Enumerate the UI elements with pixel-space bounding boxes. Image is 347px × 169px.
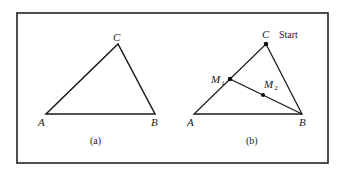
vertex-label-b-C: C (262, 28, 270, 40)
point-label-m1-main: M (210, 73, 221, 85)
vertex-label-a-C: C (113, 31, 121, 43)
point-label-m2: M2 (263, 78, 278, 92)
start-label: Start (279, 29, 298, 40)
point-label-m2-sub: 2 (274, 84, 278, 92)
triangle-midpoint-diagram: A B C (a) A B C Start M1 M2 (b) (0, 0, 347, 169)
triangle-abc-a (46, 44, 155, 114)
point-m1-dot (228, 77, 233, 82)
caption-b: (b) (246, 135, 258, 147)
vertex-label-a-B: B (151, 116, 158, 128)
caption-a: (a) (90, 135, 101, 147)
point-label-m2-main: M (263, 78, 274, 90)
panel-b: A B C Start M1 M2 (b) (186, 28, 306, 147)
panel-a: A B C (a) (37, 31, 158, 147)
vertex-label-b-A: A (186, 116, 194, 128)
point-c-start-dot (264, 42, 269, 47)
vertex-label-a-A: A (37, 116, 45, 128)
point-m2-dot (261, 93, 265, 97)
point-label-m1: M1 (210, 73, 225, 87)
vertex-label-b-B: B (299, 116, 306, 128)
point-label-m1-sub: 1 (221, 79, 225, 87)
